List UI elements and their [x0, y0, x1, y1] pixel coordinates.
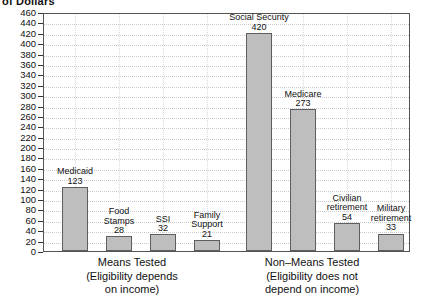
bar-value: 33 — [343, 223, 428, 233]
y-axis-tick-label: 380 — [20, 50, 36, 60]
group-label-line: Non–Means Tested — [202, 256, 422, 270]
y-axis-tick-label: 20 — [25, 237, 36, 247]
y-axis-tick-label: 40 — [25, 226, 36, 236]
y-axis-tick-label: 280 — [20, 102, 36, 112]
y-axis-tick-label: 460 — [20, 8, 36, 18]
y-axis-title: of Dollars — [2, 0, 55, 7]
bar-series: Medicaid123FoodStamps28SSI32FamilySuppor… — [44, 14, 409, 251]
bar-value: 420 — [211, 23, 307, 33]
y-axis-tick — [38, 252, 43, 253]
y-axis-tick-label: 220 — [20, 133, 36, 143]
bar-annotation: FamilySupport21 — [159, 211, 255, 240]
bar — [378, 234, 404, 251]
y-axis-tick-label: 320 — [20, 81, 36, 91]
bar — [194, 240, 220, 251]
y-axis-tick-label: 200 — [20, 143, 36, 153]
bar — [246, 33, 272, 251]
bar-annotation: Militaryretirement33 — [343, 204, 428, 233]
plot-area: Medicaid123FoodStamps28SSI32FamilySuppor… — [43, 13, 410, 252]
group-label-line: depend on income) — [202, 283, 422, 297]
y-axis-tick-label: 240 — [20, 122, 36, 132]
y-axis-tick-label: 360 — [20, 60, 36, 70]
bar-value: 21 — [159, 230, 255, 240]
y-axis-tick-label: 420 — [20, 29, 36, 39]
bar — [106, 236, 132, 251]
bar-value: 123 — [27, 177, 123, 187]
y-axis-tick-label: 440 — [20, 18, 36, 28]
bar-annotation: Social Security420 — [211, 13, 307, 32]
y-axis-tick-label: 400 — [20, 39, 36, 49]
y-axis: 4604404204003803603403203002802602402202… — [0, 13, 43, 252]
y-axis-tick-label: 300 — [20, 91, 36, 101]
y-axis-tick-label: 260 — [20, 112, 36, 122]
y-axis-tick-label: 80 — [25, 205, 36, 215]
y-axis-tick-label: 100 — [20, 195, 36, 205]
bar-annotation: Medicaid123 — [27, 167, 123, 186]
y-axis-tick-label: 340 — [20, 70, 36, 80]
bar-value: 273 — [255, 99, 351, 109]
group-label-line: (Eligibility does not — [202, 270, 422, 284]
bar-annotation: Medicare273 — [255, 90, 351, 109]
y-axis-tick-label: 180 — [20, 153, 36, 163]
bar — [290, 109, 316, 251]
group-label-non-means-tested: Non–Means Tested(Eligibility does notdep… — [202, 256, 422, 297]
y-axis-tick-label: 60 — [25, 216, 36, 226]
